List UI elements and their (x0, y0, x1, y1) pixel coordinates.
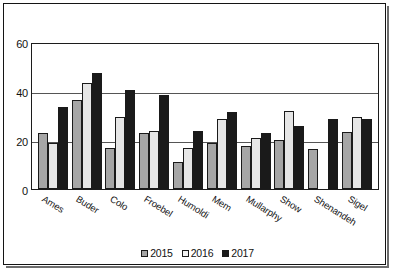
swatch-2017-icon (222, 250, 229, 257)
bar-buder-2016[interactable] (82, 83, 92, 189)
bar-show-2016[interactable] (284, 111, 294, 190)
bar-colo-2016[interactable] (115, 117, 125, 190)
x-label-cell: Sigel (341, 191, 375, 241)
bar-group-mullarphy (239, 44, 273, 189)
bar-group-show (273, 44, 307, 189)
x-axis-label-froebel: Froebel (142, 193, 175, 219)
legend-item-2016[interactable]: 2016 (182, 247, 214, 259)
swatch-2015-icon (141, 250, 148, 257)
bar-mem-2017[interactable] (227, 112, 237, 189)
bar-humoldi-2017[interactable] (193, 131, 203, 189)
bar-humoldi-2015[interactable] (173, 162, 183, 189)
bar-shenandeh-2017[interactable] (328, 119, 338, 189)
chart-screenshot: 0204060 AmesBuderColoFroebelHumoldiMemMu… (0, 0, 395, 273)
bar-group-mem (205, 44, 239, 189)
bar-mullarphy-2017[interactable] (261, 133, 271, 189)
bar-group-sigel (340, 44, 374, 189)
bar-mem-2016[interactable] (217, 119, 227, 189)
x-axis-label-mem: Mem (210, 193, 233, 213)
x-label-cell: Shenandeh (307, 191, 341, 241)
bar-mullarphy-2015[interactable] (241, 146, 251, 190)
legend-label-2015: 2015 (150, 247, 173, 259)
bar-ames-2016[interactable] (48, 143, 58, 189)
bar-froebel-2015[interactable] (139, 133, 149, 189)
bar-froebel-2017[interactable] (159, 95, 169, 189)
bar-show-2017[interactable] (294, 126, 304, 189)
legend-label-2017: 2017 (231, 247, 254, 259)
bar-group-humoldi (171, 44, 205, 189)
bar-froebel-2016[interactable] (149, 131, 159, 189)
legend-label-2016: 2016 (191, 247, 214, 259)
bar-sigel-2017[interactable] (362, 119, 372, 189)
bar-shenandeh-2015[interactable] (308, 149, 318, 189)
x-label-cell: Mem (205, 191, 239, 241)
y-axis-tick-40: 40 (16, 87, 28, 99)
bar-colo-2015[interactable] (105, 148, 115, 189)
x-label-cell: Ames (35, 191, 69, 241)
x-label-cell: Show (273, 191, 307, 241)
swatch-2016-icon (182, 250, 189, 257)
x-label-cell: Colo (103, 191, 137, 241)
x-label-cell: Froebel (137, 191, 171, 241)
bar-humoldi-2016[interactable] (183, 148, 193, 189)
bar-mem-2015[interactable] (207, 143, 217, 189)
x-axis-label-buder: Buder (74, 193, 101, 216)
bar-groups (32, 44, 378, 189)
bar-buder-2015[interactable] (72, 100, 82, 189)
bar-colo-2017[interactable] (125, 90, 135, 189)
bar-buder-2017[interactable] (92, 73, 102, 189)
x-label-cell: Buder (69, 191, 103, 241)
x-label-cell: Mullarphy (239, 191, 273, 241)
bar-mullarphy-2016[interactable] (251, 138, 261, 189)
x-axis-category-labels: AmesBuderColoFroebelHumoldiMemMullarphyS… (31, 191, 379, 241)
bar-ames-2015[interactable] (38, 133, 48, 189)
y-axis-tick-60: 60 (16, 38, 28, 50)
bar-group-ames (36, 44, 70, 189)
bar-sigel-2016[interactable] (352, 117, 362, 190)
chart-legend: 201520162017 (0, 247, 395, 259)
bar-group-buder (70, 44, 104, 189)
x-axis-label-colo: Colo (108, 193, 130, 212)
x-label-cell: Humoldi (171, 191, 205, 241)
bar-group-froebel (137, 44, 171, 189)
bar-group-shenandeh (306, 44, 340, 189)
x-axis-label-sigel: Sigel (346, 193, 369, 213)
x-axis-label-show: Show (278, 193, 304, 215)
y-axis-tick-0: 0 (22, 185, 28, 197)
bar-ames-2017[interactable] (58, 107, 68, 189)
x-axis-label-ames: Ames (40, 193, 66, 215)
chart-plot-area: 0204060 (31, 43, 379, 190)
bar-show-2015[interactable] (274, 140, 284, 190)
legend-item-2017[interactable]: 2017 (222, 247, 254, 259)
legend-item-2015[interactable]: 2015 (141, 247, 173, 259)
bar-group-colo (104, 44, 138, 189)
y-axis-tick-20: 20 (16, 136, 28, 148)
bar-sigel-2015[interactable] (342, 132, 352, 189)
